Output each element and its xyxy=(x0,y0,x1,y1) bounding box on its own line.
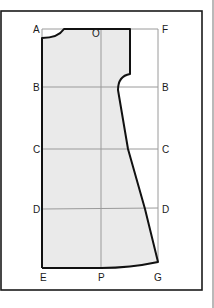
label-c-right: C xyxy=(162,144,169,155)
label-f: F xyxy=(162,24,168,35)
label-p: P xyxy=(98,272,105,283)
label-e: E xyxy=(40,272,47,283)
pattern-diagram: A O F B B C C D D E P G xyxy=(0,0,214,308)
label-b-right: B xyxy=(162,82,169,93)
label-d-right: D xyxy=(162,204,169,215)
label-d-left: D xyxy=(33,204,40,215)
label-o: O xyxy=(92,28,100,39)
label-c-left: C xyxy=(33,144,40,155)
label-a: A xyxy=(33,24,40,35)
label-g: G xyxy=(154,272,162,283)
label-b-left: B xyxy=(33,82,40,93)
